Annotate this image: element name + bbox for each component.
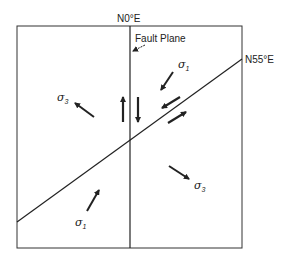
label-n0e: N0°E: [117, 13, 141, 24]
label-n55e: N55°E: [245, 54, 274, 65]
sigma1-lower-arrow-icon: [87, 190, 99, 211]
label-fault-plane: Fault Plane: [135, 33, 186, 44]
sigma1-upper-label: σ1: [178, 58, 190, 72]
fault-plane-pointer-icon: [133, 45, 145, 51]
sigma3-left-arrow-icon: [75, 103, 94, 117]
fault-diagram: N0°E Fault Plane N55°E σ1 σ3 σ3 σ1: [0, 0, 289, 255]
sigma3-right-arrow-icon: [169, 166, 189, 179]
sigma1-upper-arrow-icon: [161, 72, 173, 90]
slip-arrow-ne-icon: [168, 112, 186, 123]
sigma3-right-label: σ3: [194, 179, 206, 193]
sigma3-left-label: σ3: [57, 91, 69, 105]
sigma1-lower-label: σ1: [75, 216, 87, 230]
